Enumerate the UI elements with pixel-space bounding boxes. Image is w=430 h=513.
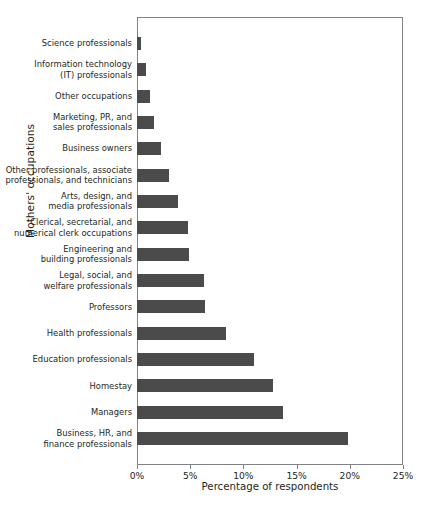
- bar: [137, 327, 226, 340]
- y-axis-tick-label: Professors: [0, 294, 137, 320]
- y-axis-tick-label: Homestay: [0, 373, 137, 399]
- y-axis-tick-label: Arts, design, andmedia professionals: [0, 188, 137, 214]
- bar-row: [137, 399, 403, 425]
- bar: [137, 406, 283, 419]
- label-line: Business owners: [62, 143, 132, 154]
- bar: [137, 432, 348, 445]
- y-axis-tick-label-text: Health professionals: [47, 328, 137, 339]
- x-axis-tick: [137, 465, 138, 469]
- bar: [137, 37, 141, 50]
- bar-row: [137, 83, 403, 109]
- bar-row: [137, 57, 403, 83]
- label-line: Science professionals: [42, 38, 132, 49]
- label-line: numerical clerk occupations: [14, 228, 132, 239]
- y-axis-tick-label-text: Clerical, secretarial, andnumerical cler…: [14, 217, 137, 238]
- x-axis-tick-label: 15%: [286, 470, 306, 481]
- bar-row: [137, 109, 403, 135]
- y-axis-tick-label: Information technology(IT) professionals: [0, 57, 137, 83]
- label-line: Marketing, PR, and: [53, 112, 132, 123]
- y-axis-tick-label-text: Engineering andbuilding professionals: [41, 244, 137, 265]
- label-line: Clerical, secretarial, and: [14, 217, 132, 228]
- label-line: Health professionals: [47, 328, 132, 339]
- y-axis-tick-label-text: Other occupations: [55, 91, 137, 102]
- bar: [137, 274, 204, 287]
- x-axis-tick-label: 10%: [233, 470, 253, 481]
- x-axis-tick: [403, 465, 404, 469]
- bar: [137, 63, 146, 76]
- y-axis-tick-label-text: Other professionals, associateprofession…: [5, 165, 137, 186]
- y-axis-tick-label: Managers: [0, 399, 137, 425]
- bar: [137, 353, 254, 366]
- label-line: Arts, design, and: [48, 191, 132, 202]
- y-axis-tick-label: Engineering andbuilding professionals: [0, 241, 137, 267]
- bar: [137, 195, 178, 208]
- label-line: Legal, social, and: [43, 270, 132, 281]
- y-axis-tick-label: Business owners: [0, 136, 137, 162]
- x-axis-tick: [350, 465, 351, 469]
- bar-row: [137, 188, 403, 214]
- label-line: Managers: [91, 407, 132, 418]
- y-axis-tick-label-text: Business, HR, andfinance professionals: [43, 428, 137, 449]
- x-axis-tick: [297, 465, 298, 469]
- label-line: building professionals: [41, 254, 132, 265]
- bar: [137, 379, 273, 392]
- bar: [137, 300, 205, 313]
- label-line: welfare professionals: [43, 281, 132, 292]
- bar-row: [137, 294, 403, 320]
- label-line: Business, HR, and: [43, 428, 132, 439]
- x-axis-tick: [243, 465, 244, 469]
- label-line: Engineering and: [41, 244, 132, 255]
- bar-row: [137, 215, 403, 241]
- bar: [137, 90, 150, 103]
- y-axis-tick-label: Clerical, secretarial, andnumerical cler…: [0, 215, 137, 241]
- bar-row: [137, 136, 403, 162]
- bar-chart-figure: Mothers' occupations Science professiona…: [0, 0, 430, 513]
- label-line: professionals, and technicians: [5, 175, 132, 186]
- y-axis-tick-label-text: Managers: [91, 407, 137, 418]
- y-axis-tick-label: Education professionals: [0, 346, 137, 372]
- bar-row: [137, 346, 403, 372]
- label-line: Professors: [89, 302, 132, 313]
- y-axis-tick-label-text: Marketing, PR, andsales professionals: [53, 112, 137, 133]
- label-line: Information technology: [34, 59, 132, 70]
- x-axis-tick-label: 5%: [183, 470, 198, 481]
- y-axis-tick-label-text: Professors: [89, 302, 137, 313]
- bar: [137, 248, 189, 261]
- y-axis-tick-label: Other professionals, associateprofession…: [0, 162, 137, 188]
- label-line: finance professionals: [43, 439, 132, 450]
- bar-row: [137, 162, 403, 188]
- y-axis-tick-label-text: Education professionals: [33, 354, 137, 365]
- bar: [137, 221, 188, 234]
- y-axis-tick-label: Marketing, PR, andsales professionals: [0, 109, 137, 135]
- x-axis-tick-label: 0%: [130, 470, 145, 481]
- y-axis-tick-label: Science professionals: [0, 30, 137, 56]
- y-axis-tick-label-text: Legal, social, andwelfare professionals: [43, 270, 137, 291]
- x-axis-title: Percentage of respondents: [137, 481, 403, 492]
- y-axis-tick-label: Other occupations: [0, 83, 137, 109]
- y-axis-tick-label: Health professionals: [0, 320, 137, 346]
- x-axis-tick: [190, 465, 191, 469]
- y-axis-tick-label-text: Information technology(IT) professionals: [34, 59, 137, 80]
- y-axis-tick-label-text: Homestay: [90, 381, 137, 392]
- label-line: Other occupations: [55, 91, 132, 102]
- label-line: (IT) professionals: [34, 70, 132, 81]
- bar-row: [137, 267, 403, 293]
- bar-row: [137, 30, 403, 56]
- y-axis-tick-label-text: Science professionals: [42, 38, 137, 49]
- x-axis-tick-label: 20%: [340, 470, 360, 481]
- bar: [137, 142, 161, 155]
- y-axis-tick-label-text: Arts, design, andmedia professionals: [48, 191, 137, 212]
- bar: [137, 116, 154, 129]
- label-line: Other professionals, associate: [5, 165, 132, 176]
- label-line: media professionals: [48, 201, 132, 212]
- y-axis-tick-label-text: Business owners: [62, 143, 137, 154]
- y-axis-tick-label: Legal, social, andwelfare professionals: [0, 267, 137, 293]
- bar-row: [137, 241, 403, 267]
- bar-row: [137, 425, 403, 451]
- label-line: Education professionals: [33, 354, 132, 365]
- bar-row: [137, 320, 403, 346]
- x-axis-tick-label: 25%: [393, 470, 413, 481]
- bar: [137, 169, 169, 182]
- y-axis-tick-label: Business, HR, andfinance professionals: [0, 425, 137, 451]
- bar-row: [137, 373, 403, 399]
